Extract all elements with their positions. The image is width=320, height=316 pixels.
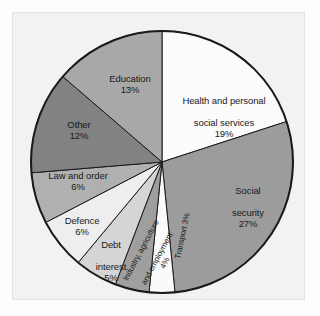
- slice-label-health-line2: social services: [194, 117, 254, 128]
- slice-label-law-and-order-line1: Law and order: [48, 170, 107, 181]
- slice-label-social-security-line1: Social: [235, 185, 260, 196]
- slice-value-other: 12%: [48, 130, 110, 141]
- slice-label-defence-line1: Defence: [65, 215, 100, 226]
- slice-value-health: 19%: [168, 128, 280, 139]
- slice-value-education: 13%: [93, 84, 167, 95]
- slice-label-law-and-order: Law and order 6%: [30, 159, 126, 203]
- slice-label-other: Other 12%: [48, 108, 110, 152]
- figure-container: Health and personal social services 19% …: [0, 0, 320, 316]
- slice-label-social-security: Social security 27%: [213, 174, 283, 240]
- slice-label-health: Health and personal social services 19%: [168, 84, 280, 150]
- slice-label-social-security-line2: security: [232, 207, 264, 218]
- slice-value-debt-interest: 5%: [84, 272, 138, 283]
- slice-label-education: Education 13%: [93, 62, 167, 106]
- slice-label-defence: Defence 6%: [51, 204, 113, 248]
- slice-label-health-line1: Health and personal: [182, 95, 265, 106]
- pie-chart: Health and personal social services 19% …: [0, 0, 320, 316]
- slice-label-other-line1: Other: [67, 119, 90, 130]
- slice-value-defence: 6%: [51, 226, 113, 237]
- slice-value-law-and-order: 6%: [30, 181, 126, 192]
- slice-label-education-line1: Education: [109, 73, 150, 84]
- slice-value-social-security: 27%: [213, 218, 283, 229]
- slice-label-debt-interest-line2: interest: [96, 261, 126, 272]
